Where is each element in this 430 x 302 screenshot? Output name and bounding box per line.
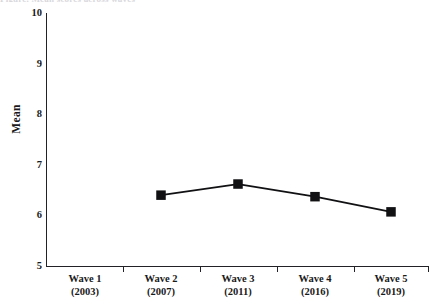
data-point-marker: [156, 190, 166, 200]
data-point-marker: [310, 192, 320, 202]
series-plot: [0, 0, 430, 302]
data-point-marker: [233, 179, 243, 189]
data-point-marker: [386, 207, 396, 217]
chart-figure: Figure. Mean scores across waves Mean 10…: [0, 0, 430, 302]
series-line: [161, 184, 391, 212]
